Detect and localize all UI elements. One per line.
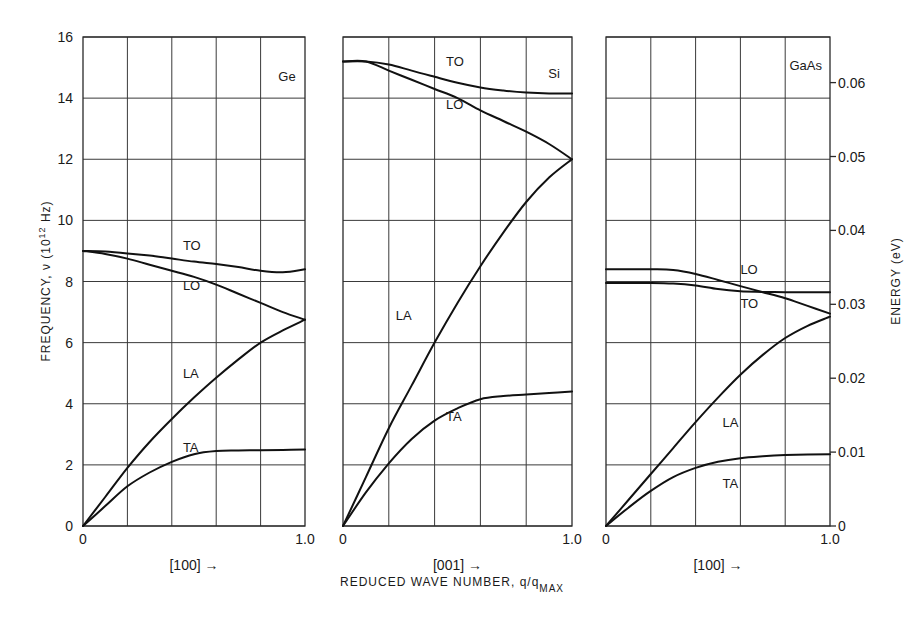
direction-label: [100] → <box>693 557 742 573</box>
y-tick-label: 16 <box>57 29 73 45</box>
curve-ge-to <box>83 251 305 272</box>
material-label: Si <box>548 66 560 81</box>
y-tick-label: 10 <box>57 212 73 228</box>
curve-label-lo: LO <box>446 97 463 112</box>
y2-axis-title: ENERGY (eV) <box>889 237 903 324</box>
y-tick-label: 8 <box>65 274 73 290</box>
y-tick-label: 12 <box>57 151 73 167</box>
curve-label-lo: LO <box>740 262 757 277</box>
x-axis-title: REDUCED WAVE NUMBER, q/qMAX <box>340 575 564 594</box>
curve-gaas-la <box>606 317 830 526</box>
curve-label-la: LA <box>722 415 738 430</box>
curve-label-la: LA <box>183 366 199 381</box>
phonon-dispersion-chart: 01.0[100] →Ge01.0[001] →Si01.0[100] →GaA… <box>0 0 913 618</box>
curve-label-to: TO <box>740 296 758 311</box>
curve-label-to: TO <box>446 54 464 69</box>
material-label: Ge <box>278 69 295 84</box>
panel-si: 01.0[001] →Si <box>339 37 582 573</box>
curve-label-lo: LO <box>183 278 200 293</box>
curve-label-ta: TA <box>722 476 738 491</box>
material-label: GaAs <box>789 58 822 73</box>
y-axis-title: FREQUENCY, ν (1012 Hz) <box>37 200 53 361</box>
curve-label-to: TO <box>183 238 201 253</box>
panels-group: 01.0[100] →Ge01.0[001] →Si01.0[100] →GaA… <box>57 29 865 573</box>
y2-tick-label: 0.03 <box>838 296 865 312</box>
y-tick-label: 4 <box>65 396 73 412</box>
y-tick-label: 6 <box>65 335 73 351</box>
x-tick-label: 0 <box>602 531 610 547</box>
x-tick-label: 1.0 <box>820 531 840 547</box>
curve-label-la: LA <box>396 308 412 323</box>
y-tick-label: 2 <box>65 457 73 473</box>
y2-tick-label: 0.01 <box>838 444 865 460</box>
direction-label: [100] → <box>169 557 218 573</box>
direction-label: [001] → <box>433 557 482 573</box>
curve-label-ta: TA <box>183 440 199 455</box>
y-tick-label: 14 <box>57 90 73 106</box>
curve-label-ta: TA <box>446 409 462 424</box>
x-tick-label: 0 <box>339 531 347 547</box>
y2-tick-label: 0.06 <box>838 75 865 91</box>
curve-gaas-to <box>606 283 830 292</box>
y-tick-label: 0 <box>65 518 73 534</box>
x-tick-label: 1.0 <box>562 531 582 547</box>
panel-gaas: 01.0[100] →GaAs <box>602 37 840 573</box>
y2-tick-label: 0 <box>838 518 846 534</box>
y2-tick-label: 0.05 <box>838 149 865 165</box>
curve-ge-ta <box>83 450 305 526</box>
x-tick-label: 0 <box>79 531 87 547</box>
y2-tick-label: 0.04 <box>838 222 865 238</box>
y2-tick-label: 0.02 <box>838 370 865 386</box>
panel-ge: 01.0[100] →Ge <box>79 37 315 573</box>
x-tick-label: 1.0 <box>295 531 315 547</box>
